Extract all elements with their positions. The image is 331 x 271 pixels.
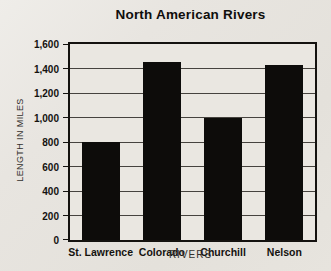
bar-st-lawrence [82, 142, 120, 240]
y-axis-tick-200 [63, 215, 68, 216]
y-axis-tick-1000 [63, 117, 68, 118]
bar-nelson [265, 65, 303, 240]
scanned-chart-page: North American Rivers LENGTH IN MILES 02… [0, 0, 331, 271]
bar-churchill [204, 118, 242, 241]
y-axis-tick-1200 [63, 93, 68, 94]
y-axis-tick-1600 [63, 44, 68, 45]
bar-colorado [143, 62, 181, 240]
y-tick-label-1000: 1,000 [34, 112, 59, 123]
y-axis-tick-800 [63, 142, 68, 143]
x-axis-title: RIVERS [68, 249, 313, 260]
y-axis-tick-1400 [63, 68, 68, 69]
y-tick-label-0: 0 [53, 235, 59, 246]
y-axis-title: LENGTH IN MILES [15, 98, 25, 182]
y-tick-label-200: 200 [42, 210, 59, 221]
y-axis-tick-600 [63, 166, 68, 167]
plot-area: 02004006008001,0001,2001,4001,600St. Law… [68, 42, 317, 242]
y-tick-label-400: 400 [42, 186, 59, 197]
y-axis-tick-0 [63, 239, 68, 240]
y-tick-label-1400: 1,400 [34, 63, 59, 74]
y-tick-label-800: 800 [42, 137, 59, 148]
y-tick-label-600: 600 [42, 161, 59, 172]
y-tick-label-1200: 1,200 [34, 88, 59, 99]
chart-title: North American Rivers [68, 7, 313, 22]
y-tick-label-1600: 1,600 [34, 39, 59, 50]
y-axis-tick-400 [63, 191, 68, 192]
